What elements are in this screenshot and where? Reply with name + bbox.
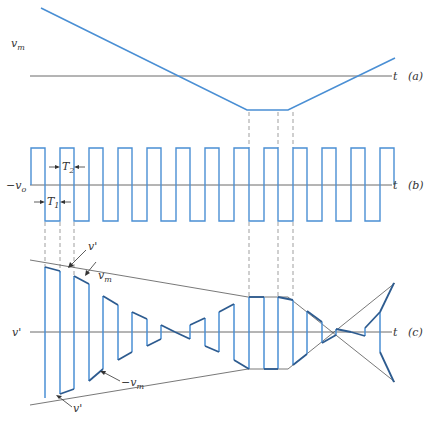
annotation-v-prime-top: v'	[68, 240, 97, 268]
dashed-guides-a-b	[249, 112, 293, 148]
svg-text:−vm: −vm	[121, 376, 144, 391]
svg-text:T1: T1	[47, 195, 59, 210]
panel-c-axis-label: t	[393, 326, 398, 339]
panel-a: vm t (a)	[11, 8, 423, 110]
chopped-segments	[45, 267, 380, 398]
annotation-v-prime-bottom: v'	[56, 395, 82, 415]
panel-a-y-label: vm	[11, 37, 25, 52]
panel-b-tag: (b)	[408, 179, 424, 192]
panel-c-tag: (c)	[408, 326, 423, 339]
envelope-neg-vm	[30, 283, 395, 405]
svg-text:v': v'	[73, 402, 82, 415]
envelope-vm	[30, 260, 395, 382]
panel-a-vm-curve	[41, 8, 395, 110]
panel-a-axis-label: t	[393, 70, 398, 83]
annotation-neg-vm: −vm	[100, 371, 144, 391]
panel-b-axis-label: t	[393, 179, 398, 192]
dashed-guides-b-c	[45, 222, 293, 297]
modulation-diagram: vm t (a) −vo T2	[0, 0, 433, 421]
panel-b-square-wave	[31, 148, 394, 221]
svg-text:v': v'	[88, 240, 97, 253]
panel-c-y-label: v'	[12, 326, 21, 339]
svg-text:T2: T2	[62, 160, 74, 175]
svg-text:vm: vm	[98, 269, 112, 284]
panel-b-y-label: −vo	[6, 179, 26, 194]
panel-b: −vo T2 T1 t (b)	[6, 148, 424, 221]
panel-c: v' t (c) v' vm −vm v'	[12, 240, 423, 415]
panel-a-tag: (a)	[408, 70, 423, 83]
t2-marker: T2	[49, 160, 85, 175]
t1-marker: T1	[34, 195, 71, 210]
